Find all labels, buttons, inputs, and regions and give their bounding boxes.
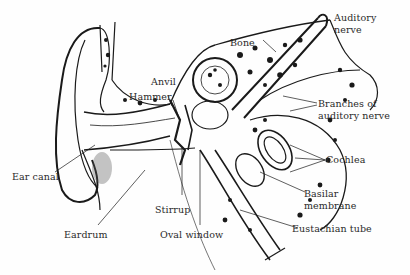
label-eustachian-tube: Eustachian tube (292, 224, 372, 234)
eustachian-tube-shape (200, 150, 280, 260)
label-eardrum: Eardrum (64, 230, 108, 240)
label-bone: Bone (230, 38, 255, 48)
label-basilar-membrane: Basilar membrane (304, 188, 356, 212)
leader-lines (55, 40, 325, 228)
label-cochlea: Cochlea (326, 155, 365, 165)
ossicles (170, 100, 185, 165)
label-auditory-nerve: Auditory nerve (334, 12, 376, 36)
label-stirrup: Stirrup (155, 205, 190, 215)
label-anvil: Anvil (151, 77, 176, 87)
auditory-nerve-tube (232, 18, 326, 118)
cochlea-shape (251, 124, 299, 176)
ear-anatomy-diagram: Auditory nerve Bone Anvil Hammer Branche… (0, 0, 410, 275)
label-hammer: Hammer (129, 92, 172, 102)
label-ear-canal: Ear canal (12, 172, 59, 182)
label-oval-window: Oval window (160, 230, 223, 240)
label-branches-of-auditory-nerve: Branches of auditory nerve (318, 98, 390, 122)
